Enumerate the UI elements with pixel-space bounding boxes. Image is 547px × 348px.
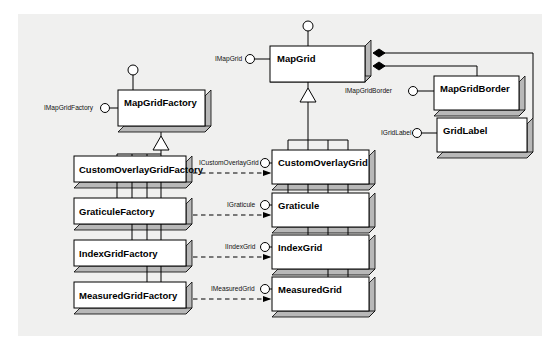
interface-label-igraticule: IGraticule xyxy=(227,202,255,209)
class-box-mapgrid xyxy=(270,46,365,82)
class-label-mapgridborder: MapGridBorder xyxy=(440,84,510,94)
dependency-arrows xyxy=(193,173,271,299)
lollipop-imeasuredgrid-icon xyxy=(261,285,270,294)
class-label-graticulefactory: GraticuleFactory xyxy=(79,207,155,217)
class-label-mapgridfactory: MapGridFactory xyxy=(124,98,197,108)
lollipop-imapgridfactory-top-icon xyxy=(128,65,138,75)
uml-diagram-canvas: MapGrid MapGridFactory MapGridBorder Gri… xyxy=(0,0,547,348)
gen-triangle-mapgridfactory xyxy=(153,136,169,150)
composition-diamond-gridlabel xyxy=(373,49,385,57)
class-label-mapgrid: MapGrid xyxy=(277,54,316,64)
lollipop-imapgrid-top-icon xyxy=(303,21,313,31)
class-label-indexgrid: IndexGrid xyxy=(278,243,322,253)
interface-label-imapgridborder: IMapGridBorder xyxy=(345,88,392,95)
gen-triangle-mapgrid xyxy=(300,88,316,102)
class-label-customoverlaygrid: CustomOverlayGrid xyxy=(278,158,368,168)
lollipop-igraticule-icon xyxy=(261,201,270,210)
lollipop-imapgridfactory-icon xyxy=(101,104,110,113)
composition-line-mapgridborder xyxy=(381,66,477,76)
class-label-measuredgridfactory: MeasuredGridFactory xyxy=(79,291,177,301)
interface-label-imapgridfactory: IMapGridFactory xyxy=(44,105,93,112)
lollipop-iindexgrid-icon xyxy=(261,243,270,252)
class-label-graticule: Graticule xyxy=(278,201,319,211)
interface-label-icustomoverlaygrid: ICustomOverlayGrid xyxy=(199,160,259,167)
lollipop-icustomoverlaygrid-icon xyxy=(261,159,270,168)
interface-label-igridlabel: IGridLabel xyxy=(381,130,411,137)
class-label-customoverlaygridfactory: CustomOverlayGridFactory xyxy=(79,165,203,175)
class-box-mapgridfactory xyxy=(118,90,205,126)
interface-label-iindexgrid: IIndexGrid xyxy=(225,244,255,251)
lollipop-imapgrid-icon xyxy=(246,55,255,64)
interface-label-imapgrid: IMapGrid xyxy=(215,56,242,63)
lollipop-igridlabel-icon xyxy=(413,129,422,138)
class-label-indexgridfactory: IndexGridFactory xyxy=(79,249,158,259)
class-label-measuredgrid: MeasuredGrid xyxy=(278,285,342,295)
composition-diamonds xyxy=(373,49,385,70)
class-label-gridlabel: GridLabel xyxy=(443,126,487,136)
lollipop-imapgridborder-icon xyxy=(409,87,418,96)
interface-label-imeasuredgrid: IMeasuredGrid xyxy=(211,286,255,293)
composition-diamond-mapgridborder xyxy=(373,62,385,70)
